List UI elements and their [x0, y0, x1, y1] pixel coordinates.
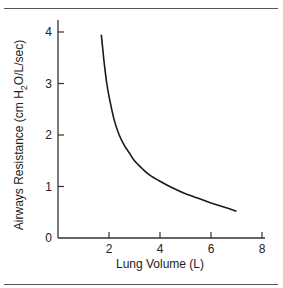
y-tick-label: 2 — [45, 128, 52, 142]
bottom-rule — [4, 284, 278, 285]
y-tick-label: 0 — [45, 231, 52, 245]
x-tick-label: 8 — [259, 242, 266, 256]
x-tick-label: 2 — [106, 242, 113, 256]
x-tick-label: 6 — [208, 242, 215, 256]
line-chart: 01234 2468 Lung Volume (L) Airways Resis… — [0, 0, 283, 288]
y-axis-title: Airways Resistance (cm H2O/L/sec) — [12, 40, 29, 230]
x-axis-ticks: 2468 — [106, 232, 266, 256]
y-tick-label: 4 — [45, 25, 52, 39]
y-tick-label: 1 — [45, 180, 52, 194]
y-tick-label: 3 — [45, 77, 52, 91]
x-axis-title: Lung Volume (L) — [116, 257, 204, 271]
resistance-curve — [101, 35, 236, 212]
axes — [58, 20, 265, 238]
y-axis-ticks: 01234 — [45, 25, 64, 245]
x-tick-label: 4 — [157, 242, 164, 256]
